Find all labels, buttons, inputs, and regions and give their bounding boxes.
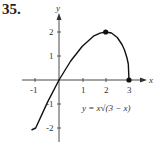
y-tick-label: -2 (46, 123, 54, 133)
y-tick-label: 1 (49, 51, 54, 61)
function-curve (32, 32, 130, 130)
x-tick-label: 1 (81, 85, 86, 95)
maximum-point (103, 29, 108, 34)
x-tick-label: 2 (104, 85, 109, 95)
y-tick-label: 2 (49, 27, 54, 37)
y-axis-arrow-icon (57, 13, 62, 20)
y-axis-label: y (55, 3, 60, 13)
function-graph: x y -1 1 2 3 2 1 -1 -2 y = x√(3 − x) (0, 0, 164, 142)
x-tick-label: -1 (30, 85, 38, 95)
equation-label: y = x√(3 − x) (81, 103, 131, 113)
endpoint-point (126, 77, 131, 82)
x-axis-label: x (148, 75, 153, 85)
x-tick-label: 3 (127, 85, 132, 95)
x-axis-arrow-icon (140, 78, 147, 83)
